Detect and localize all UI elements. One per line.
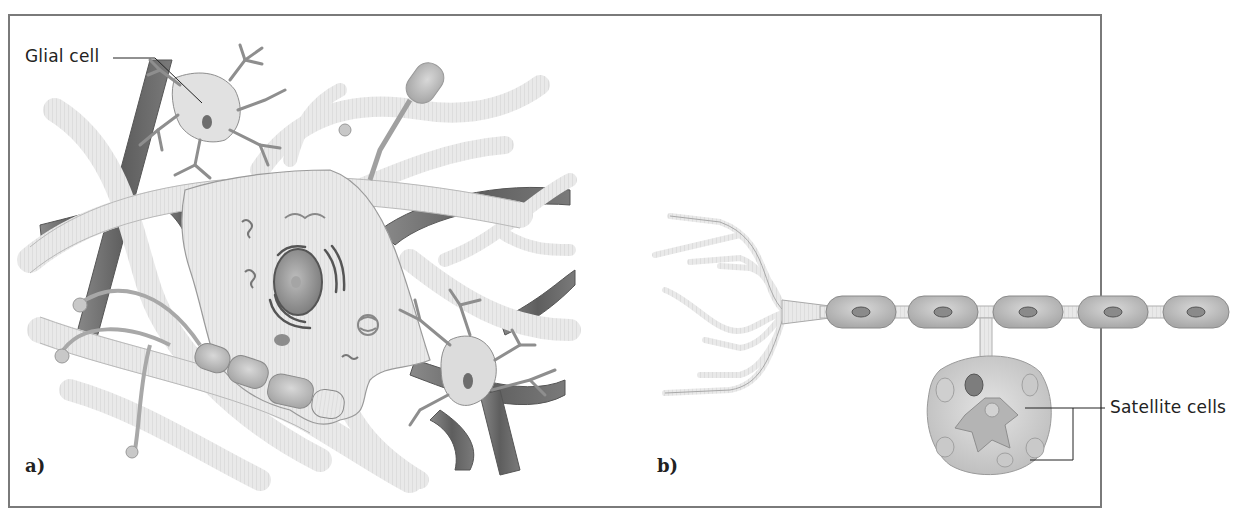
label-glial-cell: Glial cell [25,46,99,66]
ganglion-cell-body [927,356,1051,475]
label-satellite-cells: Satellite cells [1110,397,1226,417]
neuron-nucleus [965,374,983,396]
panel-a-illustration [30,45,575,480]
lysosome [274,334,290,346]
panel-b-tag: b) [657,455,678,476]
panel-b-illustration [655,216,1229,475]
panel-a-tag: a) [25,455,45,476]
dendrites [655,216,785,393]
diagram-artwork [0,0,1257,520]
